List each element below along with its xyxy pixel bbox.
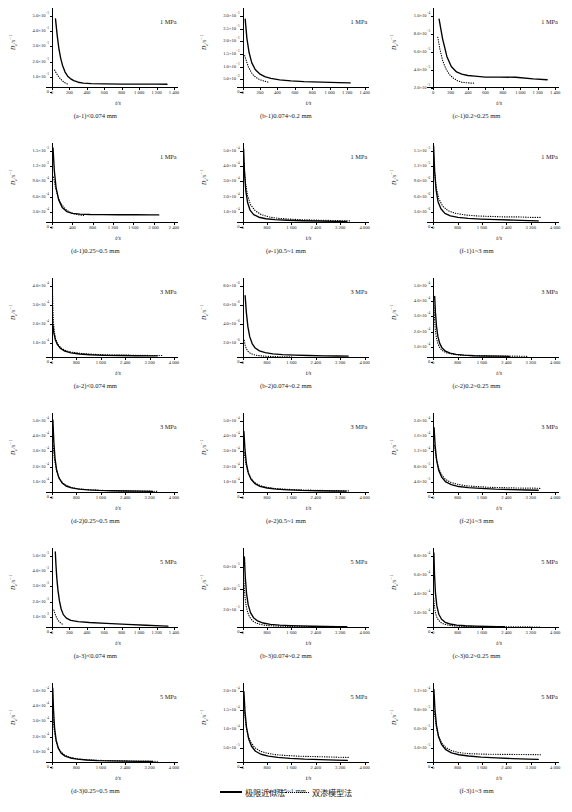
x-tick-label: 1 000 bbox=[325, 91, 335, 96]
x-axis-label-c-3: t/s bbox=[433, 640, 565, 646]
x-tick-label: 1 600 bbox=[477, 766, 487, 771]
x-tick-label: 4 000 bbox=[550, 361, 560, 366]
x-tick-label: 2 400 bbox=[311, 226, 321, 231]
subplot-b-1: De/s−105.0×10−21.0×10−11.5×10−12.0×10−12… bbox=[191, 0, 382, 135]
x-tick-label: 2 400 bbox=[501, 361, 511, 366]
x-tick-label: 1 600 bbox=[128, 226, 138, 231]
legend-item-dotted: 双渗模型法 bbox=[285, 786, 352, 798]
subplot-a-2: De/s−101.0×10−42.0×10−43.0×10−44.0×10−40… bbox=[0, 270, 191, 405]
curve-limit-approx bbox=[53, 420, 153, 491]
x-tick-label: 3 200 bbox=[335, 361, 345, 366]
y-axis-label-c-1: De/s−1 bbox=[391, 35, 397, 50]
pressure-annotation-e-3: 5 MPa bbox=[351, 693, 368, 700]
curve-dual-permeability bbox=[55, 70, 69, 84]
pressure-annotation-d-1: 1 MPa bbox=[160, 153, 177, 160]
x-tick-label: 2 400 bbox=[501, 631, 511, 636]
x-tick-label: 0 bbox=[51, 361, 53, 366]
x-tick-mark bbox=[555, 628, 556, 630]
subplot-e-2: De/s−101.0×10−42.0×10−43.0×10−44.0×10−45… bbox=[191, 405, 382, 540]
pressure-annotation-a-2: 3 MPa bbox=[160, 288, 177, 295]
y-axis-label-d-3: De/s−1 bbox=[10, 710, 16, 725]
curve-limit-approx bbox=[434, 553, 505, 627]
x-axis-label-b-2: t/s bbox=[243, 370, 375, 376]
plot-area-a-2: 01.0×10−42.0×10−43.0×10−44.0×10−408001 6… bbox=[52, 282, 174, 358]
figure-legend: 极限近似法 双渗模型法 bbox=[0, 786, 572, 798]
subplot-b-3: De/s−102.0×10−54.0×10−56.0×10−508001 600… bbox=[191, 540, 382, 675]
x-tick-mark bbox=[555, 493, 556, 495]
curve-dual-permeability bbox=[244, 56, 268, 83]
x-tick-label: 4 000 bbox=[550, 496, 560, 501]
x-axis-label-b-1: t/s bbox=[243, 100, 375, 106]
x-tick-label: 2 400 bbox=[501, 766, 511, 771]
x-axis-label-b-3: t/s bbox=[243, 640, 375, 646]
x-tick-mark bbox=[174, 223, 175, 225]
x-tick-label: 800 bbox=[264, 766, 271, 771]
x-tick-label: 2 400 bbox=[311, 766, 321, 771]
plot-area-f-2: 04.0×10−58.0×10−51.2×10−41.6×10−42.0×10−… bbox=[433, 417, 555, 493]
subplot-c-2: De/s−101.0×10−42.0×10−43.0×10−44.0×10−45… bbox=[381, 270, 572, 405]
x-tick-label: 4 000 bbox=[359, 496, 369, 501]
x-tick-label: 0 bbox=[432, 226, 434, 231]
subplot-grid: De/s−101.0×10−12.0×10−13.0×10−14.0×10−15… bbox=[0, 0, 572, 810]
x-tick-label: 800 bbox=[73, 361, 80, 366]
x-tick-label: 2 400 bbox=[311, 631, 321, 636]
subplot-a-3: De/s−101.0×10−32.0×10−33.0×10−34.0×10−35… bbox=[0, 540, 191, 675]
x-tick-label: 400 bbox=[83, 631, 90, 636]
plot-area-e-1: 01.0×10−42.0×10−43.0×10−44.0×10−45.0×10−… bbox=[243, 147, 365, 223]
plot-area-c-2: 01.0×10−42.0×10−43.0×10−44.0×10−45.0×10−… bbox=[433, 282, 555, 358]
y-axis-label-a-1: De/s−1 bbox=[10, 35, 16, 50]
x-tick-label: 1 600 bbox=[286, 361, 296, 366]
x-tick-label: 1 200 bbox=[108, 226, 118, 231]
subplot-f-1: De/s−103.0×10−66.0×10−69.0×10−61.2×10−51… bbox=[381, 135, 572, 270]
x-tick-label: 200 bbox=[66, 91, 73, 96]
x-tick-mark bbox=[174, 493, 175, 495]
x-tick-label: 0 bbox=[51, 91, 53, 96]
pressure-annotation-c-3: 5 MPa bbox=[541, 558, 558, 565]
x-tick-label: 2 400 bbox=[501, 496, 511, 501]
x-tick-label: 2 400 bbox=[120, 361, 130, 366]
x-tick-label: 1 600 bbox=[96, 361, 106, 366]
x-tick-label: 800 bbox=[454, 496, 461, 501]
curve-dual-permeability bbox=[53, 446, 157, 491]
y-axis-label-e-1: De/s−1 bbox=[201, 170, 207, 185]
x-tick-label: 1 200 bbox=[342, 91, 352, 96]
x-tick-label: 3 200 bbox=[526, 361, 536, 366]
subplot-caption-b-1: (b-1)0.074~0.2 mm bbox=[191, 112, 382, 119]
x-tick-label: 1 400 bbox=[169, 631, 179, 636]
x-axis-label-d-1: t/s bbox=[52, 235, 184, 241]
x-tick-label: 1 200 bbox=[151, 91, 161, 96]
x-tick-label: 200 bbox=[66, 631, 73, 636]
legend-label-dotted: 双渗模型法 bbox=[312, 786, 352, 798]
subplot-caption-e-1: (e-1)0.5~1 mm bbox=[191, 247, 382, 254]
pressure-annotation-b-3: 5 MPa bbox=[351, 558, 368, 565]
pressure-annotation-f-2: 3 MPa bbox=[541, 423, 558, 430]
x-tick-label: 4 000 bbox=[359, 631, 369, 636]
subplot-caption-c-2: (c-2)0.2~0.25 mm bbox=[381, 382, 572, 389]
plot-area-b-1: 05.0×10−21.0×10−11.5×10−12.0×10−12.5×10−… bbox=[243, 12, 365, 88]
plot-area-d-1: 03.0×10−46.0×10−49.0×10−41.2×10−31.5×10−… bbox=[52, 147, 174, 223]
x-tick-label: 0 bbox=[432, 631, 434, 636]
x-tick-label: 3 200 bbox=[335, 631, 345, 636]
x-tick-label: 2 400 bbox=[120, 766, 130, 771]
x-tick-mark bbox=[365, 223, 366, 225]
x-tick-label: 3 200 bbox=[526, 766, 536, 771]
y-axis-label-c-3: De/s−1 bbox=[391, 575, 397, 590]
curve-dual-permeability bbox=[52, 282, 161, 356]
plot-area-e-3: 05.0×10−51.0×10−41.5×10−42.0×10−408001 6… bbox=[243, 687, 365, 763]
curve-dual-permeability bbox=[434, 306, 528, 357]
pressure-annotation-f-3: 5 MPa bbox=[541, 693, 558, 700]
x-axis-label-d-2: t/s bbox=[52, 505, 184, 511]
x-tick-label: 1 000 bbox=[515, 91, 525, 96]
curve-dual-permeability bbox=[244, 453, 349, 491]
x-tick-label: 800 bbox=[118, 91, 125, 96]
x-tick-label: 0 bbox=[51, 226, 53, 231]
x-tick-label: 1 600 bbox=[477, 496, 487, 501]
subplot-f-2: De/s−104.0×10−58.0×10−51.2×10−41.6×10−42… bbox=[381, 405, 572, 540]
plot-area-f-1: 03.0×10−66.0×10−69.0×10−61.2×10−51.5×10−… bbox=[433, 147, 555, 223]
x-tick-mark bbox=[365, 358, 366, 360]
x-tick-label: 600 bbox=[101, 631, 108, 636]
curve-limit-approx bbox=[434, 146, 539, 221]
subplot-caption-d-1: (d-1)0.25~0.5 mm bbox=[0, 247, 191, 254]
x-tick-label: 4 000 bbox=[169, 361, 179, 366]
subplot-caption-e-2: (e-2)0.5~1 mm bbox=[191, 517, 382, 524]
